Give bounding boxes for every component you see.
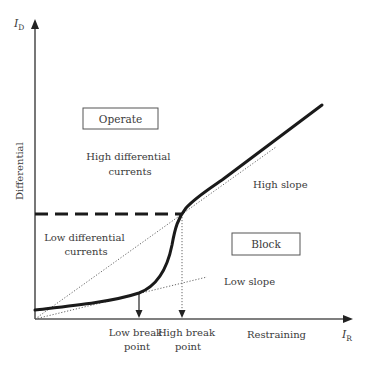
y-axis-arrow-icon: [31, 19, 39, 29]
low-break-arrow-icon: [136, 310, 143, 318]
characteristic-curve: [35, 105, 322, 310]
x-axis-symbol: IR: [341, 328, 352, 343]
low-slope-label: Low slope: [224, 276, 275, 287]
high-break-arrow-icon: [179, 310, 186, 318]
x-axis-label: Restraining: [247, 329, 307, 340]
x-axis-arrow-icon: [343, 315, 353, 323]
low-break-point-label: Low break point: [109, 327, 166, 352]
block-label: Block: [251, 238, 281, 250]
low-differential-currents-label: Low differential currents: [44, 232, 128, 257]
y-axis-label: Differential: [14, 142, 25, 200]
high-differential-currents-label: High differential currents: [86, 151, 173, 177]
y-axis-symbol: ID: [13, 17, 24, 32]
high-slope-label: High slope: [253, 179, 308, 190]
differential-characteristic-diagram: ID Differential IR Restraining Operate B…: [0, 0, 370, 365]
operate-label: Operate: [99, 113, 142, 125]
block-region-box: Block: [232, 233, 300, 255]
y-axis: ID Differential: [13, 17, 39, 319]
high-break-point-label: High break point: [158, 327, 218, 352]
operate-region-box: Operate: [83, 108, 158, 129]
